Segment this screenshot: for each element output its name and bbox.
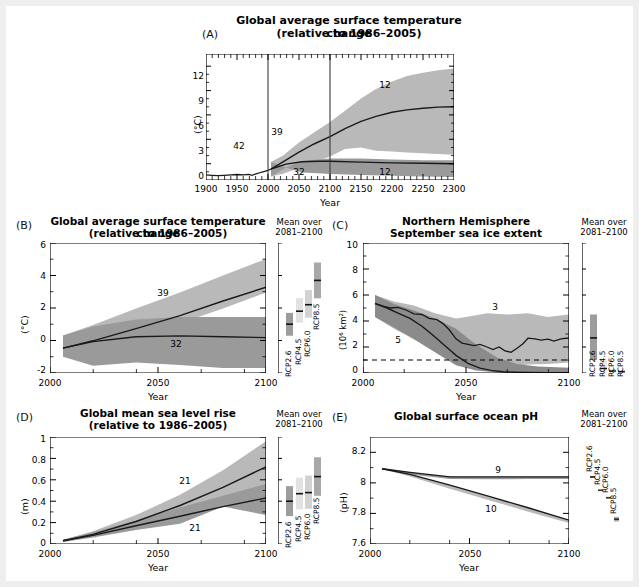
panel-e-ytick-76: 7.6	[338, 538, 366, 548]
panel-c-ytick-8: 8	[340, 265, 358, 275]
panel-a-xtick-2000: 2000	[254, 184, 282, 194]
panel-b-ylabel: (°C)	[19, 315, 30, 334]
panel-e: (E) Global surface ocean pH Mean over 20…	[326, 402, 633, 587]
panel-c-plot	[363, 243, 569, 373]
panel-c-xtick-2050: 2050	[452, 378, 480, 388]
panel-c-ytick-0: 0	[340, 365, 358, 375]
panel-a-ytick-9: 9	[188, 96, 204, 106]
panel-d-rcp-label-0: RCP2.6	[284, 521, 293, 548]
panel-e-label: (E)	[332, 411, 348, 424]
panel-c-xtick-2100: 2100	[555, 378, 583, 388]
panel-c-rcp-label-1: RCP4.5	[598, 350, 607, 377]
panel-b-xlabel: Year	[134, 391, 182, 402]
panel-a-ytick-0: 0	[188, 171, 204, 181]
panel-e-rcp-label-3: RCP8.5	[609, 487, 618, 514]
panel-c-ytick-6: 6	[340, 290, 358, 300]
panel-a-annotation-39: 39	[270, 127, 284, 137]
panel-d-meanbar-title-line1: Mean over	[272, 409, 326, 419]
panel-b-xtick-2050: 2050	[144, 378, 172, 388]
panel-e-ytick-82: 8.2	[338, 446, 366, 456]
panel-b-ytick-2: 2	[24, 302, 46, 312]
panel-a-xtick-2300: 2300	[440, 184, 468, 194]
panel-e-meanbar-title-line2: 2081–2100	[577, 419, 631, 429]
panel-a-xtick-1900: 1900	[192, 184, 220, 194]
panel-e-xlabel: Year	[445, 562, 493, 573]
panel-e-plot	[370, 437, 569, 544]
panel-a-ytick-12: 12	[184, 71, 204, 81]
panel-d-meanbar-title-line2: 2081–2100	[272, 419, 326, 429]
panel-d-title-line2: (relative to 1986–2005)	[43, 419, 273, 431]
panel-c-meanbar-title-line1: Mean over	[577, 217, 631, 227]
panel-d: (D) Global mean sea level rise (relative…	[6, 402, 326, 587]
panel-c-xtick-2000: 2000	[349, 378, 377, 388]
panel-c-meanbar-title-line2: 2081–2100	[577, 227, 631, 237]
panel-c: (C) Northern Hemisphere September sea ic…	[326, 212, 633, 407]
panel-d-xtick-2100: 2100	[252, 549, 280, 559]
panel-d-xtick-2000: 2000	[36, 549, 64, 559]
panel-a-annotation-12-bottom: 12	[378, 167, 392, 177]
panel-b-rcp-label-0: RCP2.6	[284, 350, 293, 377]
panel-a-xtick-2200: 2200	[378, 184, 406, 194]
panel-b-meanbar-title-line2: 2081–2100	[272, 227, 326, 237]
panel-a-annotation-42: 42	[232, 141, 246, 151]
panel-e-xtick-2000: 2000	[356, 549, 384, 559]
panel-d-annotation-21-top: 21	[178, 476, 192, 486]
panel-b-annotation-32: 32	[169, 339, 183, 349]
panel-d-ytick-04: 0.4	[20, 497, 46, 507]
panel-e-xtick-2100: 2100	[555, 549, 583, 559]
panel-a-xtick-2050: 2050	[285, 184, 313, 194]
panel-b-xtick-2000: 2000	[36, 378, 64, 388]
panel-c-ytick-2: 2	[340, 340, 358, 350]
panel-b-title-line2: (relative to 1986–2005)	[43, 227, 273, 239]
panel-a-xtick-2250: 2250	[409, 184, 437, 194]
panel-b: (B) Global average surface temperature c…	[6, 212, 326, 407]
panel-e-xtick-2050: 2050	[456, 549, 484, 559]
panel-d-rcp-label-3: RCP8.5	[312, 497, 321, 524]
panel-b-ytick-neg2: -2	[24, 365, 46, 375]
panel-e-meanbar-title-line1: Mean over	[577, 409, 631, 419]
panel-b-rcp-label-3: RCP8.5	[312, 303, 321, 330]
panel-d-xlabel: Year	[134, 562, 182, 573]
panel-e-annotation-10: 10	[483, 504, 499, 514]
panel-d-rcp-label-2: RCP6.0	[303, 513, 312, 540]
panel-c-annotation-3: 3	[489, 302, 501, 312]
panel-b-ytick-6: 6	[24, 240, 46, 250]
panel-c-title-line2: September sea ice extent	[366, 227, 566, 239]
panel-e-title-line1: Global surface ocean pH	[366, 410, 566, 422]
panel-b-annotation-39: 39	[156, 288, 170, 298]
panel-a-plot	[206, 54, 454, 180]
panel-c-label: (C)	[332, 219, 348, 232]
panel-d-ytick-0: 0	[20, 538, 46, 548]
panel-c-rcp-label-3: RCP8.5	[616, 350, 625, 377]
panel-d-annotation-21-bottom: 21	[188, 523, 202, 533]
panel-a-xtick-2100: 2100	[316, 184, 344, 194]
panel-c-rcp-label-2: RCP6.0	[607, 350, 616, 377]
panel-b-ytick-0: 0	[24, 334, 46, 344]
panel-a-label: (A)	[202, 28, 218, 41]
panel-b-meanbar-title-line1: Mean over	[272, 217, 326, 227]
panel-d-ytick-1: 1	[20, 434, 46, 444]
panel-a-annotation-12-top: 12	[378, 80, 392, 90]
panel-d-title-line1: Global mean sea level rise	[43, 407, 273, 419]
panel-e-ytick-8: 8	[338, 477, 366, 487]
panel-a-ytick-3: 3	[188, 146, 204, 156]
panel-d-ytick-06: 0.6	[20, 476, 46, 486]
panel-a-xlabel: Year	[306, 197, 354, 208]
panel-a-annotation-32: 32	[292, 167, 306, 177]
panel-b-ytick-4: 4	[24, 271, 46, 281]
panel-d-rcp-label-1: RCP4.5	[294, 515, 303, 542]
panel-b-rcp-label-1: RCP4.5	[294, 338, 303, 365]
panel-b-plot	[50, 243, 266, 373]
panel-c-annotation-5: 5	[392, 335, 404, 345]
panel-c-title-line1: Northern Hemisphere	[366, 215, 566, 227]
panel-d-ytick-08: 0.8	[20, 455, 46, 465]
panel-b-rcp-label-2: RCP6.0	[303, 330, 312, 357]
panel-d-xtick-2050: 2050	[144, 549, 172, 559]
panel-a-ytick-6: 6	[188, 121, 204, 131]
panel-d-plot	[50, 437, 266, 544]
panel-b-label: (B)	[16, 219, 32, 232]
panel-a: (A) Global average surface temperature c…	[6, 6, 526, 214]
panel-a-xtick-1950: 1950	[223, 184, 251, 194]
panel-e-annotation-9: 9	[492, 465, 504, 475]
panel-e-ytick-78: 7.8	[338, 507, 366, 517]
